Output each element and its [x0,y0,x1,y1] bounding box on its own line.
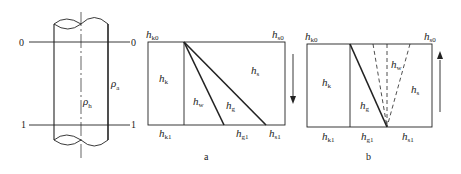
arrow-down-icon [290,96,296,104]
section-label-1-left: 1 [21,119,26,130]
panel-a-line-s1 [184,42,266,125]
panel-b-hw: hw [391,58,403,72]
panel-a-caption: a [204,151,209,162]
panel-a-hk: hk [159,72,169,86]
panel-b-hg1: hg1 [361,130,374,144]
rho-h-label: ρh [82,95,92,110]
panel-b-hs: hs [411,83,420,97]
panel-b-dashed-3 [387,44,410,127]
section-label-0-left: 0 [19,37,24,48]
panel-a-hs0: hs0 [272,28,284,42]
panel-a-line-g1 [184,42,224,125]
panel-a-hk1: hk1 [159,127,172,141]
panel-a-hk0: hk0 [146,28,159,42]
panel-b-line-g [350,44,387,127]
panel-a-hw: hw [193,95,205,109]
panel-a-hg1: hg1 [236,127,249,141]
panel-b-hs0: hs0 [424,30,436,44]
panel-a-frame [148,42,285,125]
rho-a-label: ρa [110,77,120,92]
section-label-0-right: 0 [131,37,136,48]
panel-a-hg: hg [226,99,236,113]
panel-b-dashed-1 [373,44,387,127]
panel-b-hg: hg [360,99,370,113]
panel-b-hs1: hs1 [402,130,414,144]
arrow-up-icon [437,51,443,59]
panel-b-caption: b [366,151,371,162]
panel-a-hs: hs [251,64,260,78]
panel-b-hk: hk [322,76,332,90]
panel-a-hs1: hs1 [269,127,281,141]
panel-b-hk0: hk0 [305,30,318,44]
diagram-canvas: 0 0 1 1 ρh ρa hk0 hs0 hk hw hg hs hk1 hg… [0,0,461,174]
panel-b-hk1: hk1 [322,130,335,144]
section-label-1-right: 1 [131,119,136,130]
panel-a [148,42,293,125]
